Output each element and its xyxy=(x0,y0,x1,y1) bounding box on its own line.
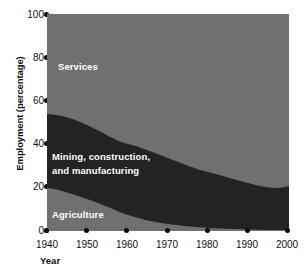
x-tick-dot-1970 xyxy=(165,228,170,233)
x-tick-label-1950: 1950 xyxy=(70,240,104,250)
services-band-label: Services xyxy=(58,61,98,72)
x-tick-label-1940: 1940 xyxy=(30,240,64,250)
manufacturing-band-label-line1: Mining, construction, xyxy=(52,151,150,162)
x-tick-label-1990: 1990 xyxy=(230,240,264,250)
manufacturing-band-label-line2: and manufacturing xyxy=(52,165,139,176)
x-tick-label-1960: 1960 xyxy=(110,240,144,250)
x-axis-title: Year xyxy=(40,255,60,266)
x-tick-dot-1990 xyxy=(245,228,250,233)
x-tick-dot-1980 xyxy=(205,228,210,233)
x-tick-label-2000: 2000 xyxy=(270,240,304,250)
x-axis-tick-labels: 1940 1950 1960 1970 1980 1990 2000 xyxy=(0,240,308,256)
x-tick-dot-1960 xyxy=(124,228,129,233)
x-tick-dot-1940 xyxy=(44,228,49,233)
x-tick-dot-2000 xyxy=(285,228,290,233)
x-tick-dot-1950 xyxy=(84,228,89,233)
employment-area-chart: Employment (percentage) 100 80 60 40 20 … xyxy=(0,0,308,270)
x-tick-label-1980: 1980 xyxy=(190,240,224,250)
agriculture-band-label: Agriculture xyxy=(52,209,104,220)
x-tick-label-1970: 1970 xyxy=(150,240,184,250)
